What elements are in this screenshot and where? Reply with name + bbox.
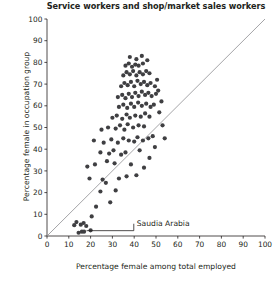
data-point [82,230,86,234]
data-point [146,136,150,140]
data-point [133,113,137,117]
x-tick-label: 0 [45,240,50,249]
data-point [109,137,113,141]
data-point [94,205,98,209]
y-tick-label: 30 [33,167,43,176]
data-point [117,105,121,109]
data-point [147,156,151,160]
data-point [117,176,121,180]
data-point [140,54,144,58]
data-point [108,200,112,204]
x-tick-label: 30 [108,240,118,249]
x-tick-label: 80 [217,240,227,249]
scatter-plot: 0102030405060708090100 01020304050607080… [0,0,276,287]
y-tick-label: 50 [33,123,43,132]
chart-annotations: Saudia Arabia [87,219,190,231]
data-point [106,125,110,129]
y-axis: 0102030405060708090100 [28,15,47,241]
y-tick-label: 70 [33,80,43,89]
data-point [124,174,128,178]
data-point [105,159,109,163]
data-point [111,148,115,152]
data-point [151,134,155,138]
data-point [141,72,145,76]
data-point [128,55,132,59]
data-point [116,95,120,99]
x-tick-label: 40 [129,240,139,249]
data-point [128,72,132,76]
data-point [132,84,136,88]
data-point [99,128,103,132]
data-point [152,103,156,107]
data-point [126,122,130,126]
data-point [147,115,151,119]
data-point [128,116,132,120]
diagonal-equality-line [47,19,265,236]
data-point [142,166,146,170]
y-tick-label: 100 [28,15,42,24]
data-point [141,138,145,142]
data-point [127,138,131,142]
data-point [112,161,116,165]
data-point [107,151,111,155]
data-point [123,96,127,100]
annotation-leader-line [87,224,134,231]
data-point [116,141,120,145]
data-point [121,103,125,107]
x-axis: 0102030405060708090100 [45,236,273,249]
x-tick-label: 10 [64,240,74,249]
data-point [156,89,160,93]
data-point [132,140,136,144]
data-point [121,136,125,140]
data-point [136,100,140,104]
data-point [160,123,164,127]
y-tick-label: 40 [33,145,43,154]
data-point [122,128,126,132]
data-point [140,104,144,108]
data-point [144,102,148,106]
data-point [98,150,102,154]
data-point [74,220,78,224]
y-tick-label: 20 [33,188,43,197]
data-point [104,181,108,185]
x-tick-label: 70 [195,240,205,249]
data-point [110,116,114,120]
data-point [92,138,96,142]
x-tick-label: 50 [151,240,161,249]
y-tick-label: 90 [33,36,43,45]
data-point [148,81,152,85]
data-point [153,84,157,88]
y-tick-label: 60 [33,101,43,110]
data-point [119,84,123,88]
data-point [127,92,131,96]
data-point [114,188,118,192]
data-point [147,71,151,75]
data-point [118,123,122,127]
data-point [129,102,133,106]
data-point [134,173,138,177]
data-point [129,162,133,166]
data-point [143,111,147,115]
data-point [135,79,139,83]
data-point [142,124,146,128]
x-tick-label: 60 [173,240,183,249]
data-point [135,135,139,139]
data-point [153,145,157,149]
annotation-label: Saudia Arabia [137,219,190,228]
data-point [93,162,97,166]
data-point [155,78,159,82]
data-point [157,110,161,114]
data-point [134,73,138,77]
data-point [159,99,163,103]
data-point [126,83,130,87]
y-tick-label: 0 [38,232,43,241]
data-point [115,113,119,117]
data-point [141,61,145,65]
data-point [146,91,150,95]
data-point [136,94,140,98]
data-point [82,221,86,225]
y-tick-label: 80 [33,58,43,67]
chart-figure: Service workers and shop/market sales wo… [0,0,276,287]
data-points [72,54,167,235]
data-point [163,136,167,140]
